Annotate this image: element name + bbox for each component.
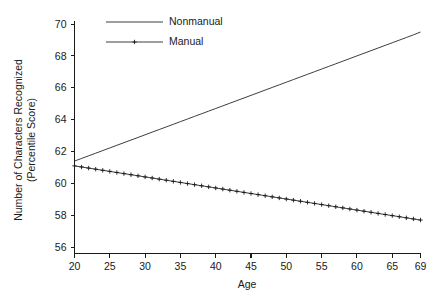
line-chart: 5658606264666870 2025303540455055606569 … [0,0,439,299]
series-line-nonmanual [75,32,421,161]
chart-figure: 5658606264666870 2025303540455055606569 … [0,0,439,299]
x-tick-label: 20 [69,260,81,272]
axes-group [75,21,421,254]
y-axis-title: Number of Characters Recognized (Percent… [12,59,37,221]
x-tick-label: 50 [280,260,292,272]
x-tick-label: 40 [210,260,222,272]
x-tick-label: 35 [175,260,187,272]
x-tick-label: 60 [351,260,363,272]
series-line-manual [75,166,421,220]
y-tick-label: 64 [55,113,67,125]
y-tick-label: 70 [55,18,67,30]
y-tick-label: 58 [55,209,67,221]
x-tick-label: 55 [316,260,328,272]
x-axis-ticks: 2025303540455055606569 [69,254,427,272]
y-axis-ticks: 5658606264666870 [55,18,75,253]
y-tick-label: 62 [55,145,67,157]
legend-label-manual: Manual [169,35,203,47]
chart-legend: NonmanualManual [106,15,223,47]
y-tick-label: 56 [55,241,67,253]
y-tick-label: 66 [55,81,67,93]
x-axis-title: Age [238,278,257,290]
y-axis-title-line1: Number of Characters Recognized [12,59,24,221]
y-axis-title-line2: (Percentile Score) [25,98,37,182]
data-series-layer [72,32,422,222]
x-tick-label: 69 [415,260,427,272]
x-tick-label: 25 [104,260,116,272]
x-tick-label: 45 [245,260,257,272]
x-tick-label: 30 [139,260,151,272]
legend-label-nonmanual: Nonmanual [169,15,223,27]
y-tick-label: 60 [55,177,67,189]
y-tick-label: 68 [55,50,67,62]
x-tick-label: 65 [386,260,398,272]
